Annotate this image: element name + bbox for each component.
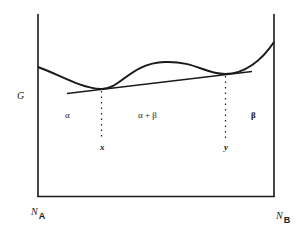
axis-label-na: NA (31, 207, 45, 217)
common-tangent-line (67, 72, 252, 94)
axis-label-nb-main: N (276, 210, 283, 221)
tangent-point-label-y: y (224, 143, 228, 152)
axis-label-nb: NB (276, 211, 290, 221)
axis-label-nb-sub: B (284, 215, 291, 225)
axis-label-na-sub: A (39, 211, 46, 221)
free-energy-curve (38, 42, 274, 89)
y-axis-label-g: G (17, 91, 24, 101)
region-label-alpha-beta: α + β (138, 111, 157, 120)
tangent-point-label-x: x (100, 143, 105, 152)
region-label-beta: β (251, 111, 256, 120)
free-energy-composition-diagram: G α α + β β x y NA NB (0, 0, 302, 232)
axis-label-na-main: N (31, 206, 38, 217)
region-label-alpha: α (65, 111, 70, 120)
